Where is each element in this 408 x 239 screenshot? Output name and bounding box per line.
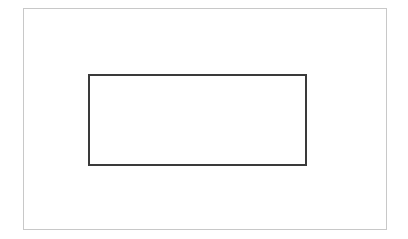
diagram-canvas <box>0 0 408 239</box>
inner-rectangle <box>88 74 307 166</box>
